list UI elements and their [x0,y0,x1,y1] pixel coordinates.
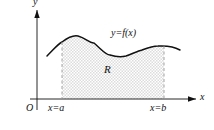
right-bound-label: x=b [150,103,166,113]
region-label: R [104,64,111,75]
left-bound-label: x=a [48,103,64,113]
area-under-curve-figure: y x O y=f(x) R x=a x=b [0,0,214,130]
x-axis-arrowhead [188,96,196,101]
x-axis-label: x [200,92,204,102]
curve-equation-label: y=f(x) [111,28,136,38]
y-axis-label: y [33,0,37,7]
shaded-region-R [47,36,180,99]
origin-label: O [26,103,33,113]
y-axis-arrowhead [34,10,39,18]
